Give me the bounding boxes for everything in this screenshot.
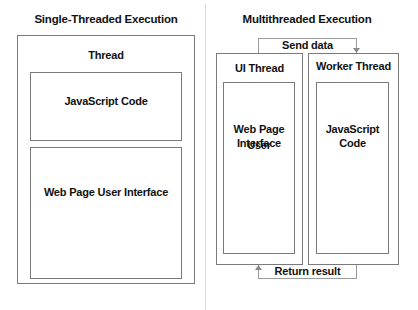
- single-web-ui-block: Web Page User Interface: [30, 147, 182, 279]
- single-javascript-code-label: JavaScript Code: [31, 93, 181, 109]
- single-javascript-code-block: JavaScript Code: [30, 72, 182, 141]
- ui-thread-web-ui-block: [223, 82, 295, 254]
- worker-thread-label: Worker Thread: [308, 58, 399, 74]
- single-threaded-title: Single-Threaded Execution: [17, 13, 195, 25]
- return-result-label: Return result: [258, 263, 357, 279]
- worker-thread-content-line2: Code: [316, 135, 389, 151]
- single-web-ui-label: Web Page User Interface: [31, 184, 181, 200]
- ui-thread-label: UI Thread: [216, 60, 303, 76]
- send-data-label: Send data: [258, 37, 357, 53]
- section-divider: [205, 4, 206, 310]
- single-thread-label: Thread: [17, 47, 195, 63]
- worker-thread-javascript-block: [316, 82, 389, 254]
- ui-thread-content-line2: Interface: [223, 135, 295, 151]
- return-result-arrow-icon: [255, 265, 263, 271]
- multithreaded-title: Multithreaded Execution: [214, 13, 400, 25]
